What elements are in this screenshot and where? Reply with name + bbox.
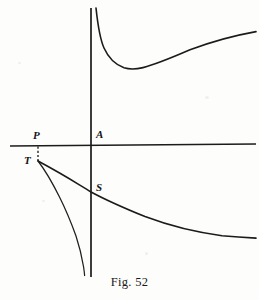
label-point-t: T [24, 155, 31, 166]
lower-branch-through-s-curve [38, 161, 256, 238]
upper-branch-curve [96, 8, 256, 69]
label-point-p: P [33, 130, 40, 141]
figure-page: P A T S Fig. 52 [0, 0, 259, 300]
label-point-s: S [96, 182, 102, 193]
figure-drawing [0, 0, 259, 300]
label-point-a: A [96, 129, 103, 140]
figure-caption: Fig. 52 [0, 275, 259, 290]
steep-branch-from-t-curve [38, 161, 85, 276]
x-axis-line [10, 144, 256, 146]
